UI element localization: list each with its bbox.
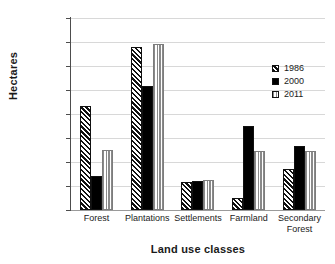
x-axis-label-settlements: Settlements — [173, 213, 224, 235]
legend-swatch-2011 — [272, 91, 279, 98]
legend-item-1986[interactable]: 1986 — [272, 62, 304, 75]
legend-label-2011: 2011 — [284, 90, 303, 99]
bar-2011-plantations[interactable] — [153, 44, 164, 210]
legend: 198620002011 — [272, 62, 304, 101]
bar-2000-farmland[interactable] — [243, 126, 254, 210]
bar-2011-forest[interactable] — [102, 150, 113, 210]
legend-item-2011[interactable]: 2011 — [272, 88, 304, 101]
bar-2011-secondary-forest[interactable] — [305, 151, 316, 210]
y-axis-title: Hectares — [7, 31, 19, 121]
gridline — [71, 210, 325, 211]
bar-2000-secondary-forest[interactable] — [294, 146, 305, 210]
bar-group — [223, 18, 274, 210]
legend-label-2000: 2000 — [284, 77, 304, 86]
x-axis-label-secondary-forest: Secondary Forest — [274, 213, 325, 235]
x-axis-label-forest: Forest — [71, 213, 122, 235]
plot-area: 8000070000600005000040000300002000010000… — [71, 18, 325, 210]
bar-2000-forest[interactable] — [91, 176, 102, 210]
bar-1986-secondary-forest[interactable] — [283, 169, 294, 210]
legend-swatch-2000 — [272, 78, 279, 85]
bar-group — [122, 18, 173, 210]
bar-1986-farmland[interactable] — [232, 198, 243, 210]
bar-group — [71, 18, 122, 210]
bar-2000-settlements[interactable] — [192, 181, 203, 210]
bar-group — [274, 18, 325, 210]
legend-label-1986: 1986 — [284, 64, 304, 73]
bar-1986-settlements[interactable] — [181, 182, 192, 210]
bar-group — [173, 18, 224, 210]
x-axis-title: Land use classes — [71, 243, 325, 255]
bar-2011-settlements[interactable] — [203, 180, 214, 210]
bar-2000-plantations[interactable] — [142, 86, 153, 210]
x-axis-label-plantations: Plantations — [122, 213, 173, 235]
bar-1986-forest[interactable] — [80, 106, 91, 210]
bar-1986-plantations[interactable] — [131, 47, 142, 210]
x-axis-tick-labels: ForestPlantationsSettlementsFarmlandSeco… — [71, 213, 325, 235]
legend-swatch-1986 — [272, 65, 279, 72]
y-axis-tick — [66, 210, 71, 211]
bar-chart: Hectares 8000070000600005000040000300002… — [0, 0, 335, 264]
x-axis-label-farmland: Farmland — [223, 213, 274, 235]
legend-item-2000[interactable]: 2000 — [272, 75, 304, 88]
bar-2011-farmland[interactable] — [254, 151, 265, 210]
bar-groups — [71, 18, 325, 210]
